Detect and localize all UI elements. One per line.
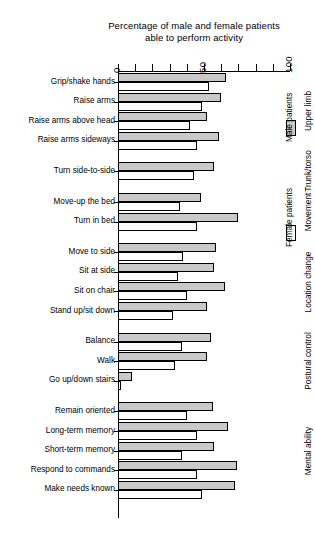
- bar-female: [118, 342, 182, 351]
- bar-row: [118, 470, 290, 479]
- bar-male: [118, 243, 216, 252]
- bar-row: [118, 193, 290, 202]
- group-label: Movementin bed: [304, 192, 314, 231]
- bar-row: [118, 402, 290, 411]
- bar-row: [118, 361, 290, 370]
- bar-female: [118, 291, 187, 300]
- category-label: Move to side: [2, 247, 118, 256]
- bar-row: [118, 302, 290, 311]
- category-label: Raise arms: [2, 96, 118, 105]
- chart-title-line-2: able to perform activity: [88, 32, 300, 44]
- x-axis-tick: [135, 64, 136, 71]
- bar-row: [118, 263, 290, 272]
- bar-row: [118, 171, 290, 180]
- bar-row: [118, 282, 290, 291]
- category-label: Move-up the bed: [2, 197, 118, 206]
- group-label: Mental ability: [304, 426, 314, 474]
- x-axis-tick: [187, 64, 188, 71]
- category-label: Go up/down stairs: [2, 375, 118, 384]
- bar-row: [118, 461, 290, 470]
- category-label: Short-term memory: [2, 445, 118, 454]
- bar-female: [118, 171, 194, 180]
- category-label: Sit on chair: [2, 286, 118, 295]
- bar-row: [118, 291, 290, 300]
- bar-male: [118, 402, 213, 411]
- bar-row: [118, 372, 290, 381]
- category-label: Turn side-to-side: [2, 166, 118, 175]
- category-label: Raise arms sideways: [2, 135, 118, 144]
- category-label: Turn in bed: [2, 216, 118, 225]
- bar-female: [118, 451, 182, 460]
- bar-male: [118, 263, 214, 272]
- bar-row: [118, 481, 290, 490]
- group-label-line: mobility: [314, 91, 315, 131]
- bar-male: [118, 302, 207, 311]
- bar-male: [118, 73, 226, 82]
- legend-label-male: Male patients: [284, 93, 294, 142]
- chart-title: Percentage of male and female patients a…: [88, 20, 300, 44]
- bar-row: [118, 352, 290, 361]
- bar-row: [118, 162, 290, 171]
- category-label: Walk: [2, 356, 118, 365]
- bar-row: [118, 431, 290, 440]
- bar-row: [118, 213, 290, 222]
- bar-row: [118, 333, 290, 342]
- bar-male: [118, 132, 219, 141]
- bar-male: [118, 461, 237, 470]
- bar-female: [118, 411, 187, 420]
- category-label: Respond to commands: [2, 465, 118, 474]
- group-label: Postural control: [304, 332, 314, 390]
- bar-row: [118, 311, 290, 320]
- category-label: Raise arms above head: [2, 116, 118, 125]
- bar-female: [118, 361, 175, 370]
- bar-female: [118, 141, 197, 150]
- x-axis-tick: [256, 64, 257, 71]
- bar-row: [118, 342, 290, 351]
- bar-row: [118, 102, 290, 111]
- bar-row: [118, 141, 290, 150]
- x-axis-tick-label: 100: [283, 56, 294, 73]
- bar-female: [118, 311, 173, 320]
- bar-row: [118, 93, 290, 102]
- x-axis-tick: [170, 64, 171, 71]
- bar-row: [118, 121, 290, 130]
- bar-row: [118, 451, 290, 460]
- category-label: Long-term memory: [2, 426, 118, 435]
- bar-row: [118, 411, 290, 420]
- bar-female: [118, 252, 183, 261]
- bar-male: [118, 442, 214, 451]
- group-label: Location change: [304, 251, 314, 312]
- group-label: Trunk/torsomobility: [304, 151, 314, 193]
- bar-male: [118, 193, 201, 202]
- bar-male: [118, 162, 214, 171]
- bar-row: [118, 442, 290, 451]
- bar-female: [118, 222, 197, 231]
- bar-male: [118, 372, 132, 381]
- plot-area: [118, 72, 290, 518]
- legend-label-female: Female patients: [284, 188, 294, 247]
- bar-male: [118, 213, 238, 222]
- bar-row: [118, 490, 290, 499]
- chart-title-line-1: Percentage of male and female patients: [88, 20, 300, 32]
- bar-male: [118, 333, 211, 342]
- bar-row: [118, 132, 290, 141]
- group-label: Upper limbmobility: [304, 91, 314, 131]
- bar-female: [118, 82, 209, 91]
- bar-row: [118, 82, 290, 91]
- chart-root: Percentage of male and female patients a…: [0, 0, 314, 542]
- bar-male: [118, 352, 207, 361]
- bar-row: [118, 272, 290, 281]
- bar-female: [118, 381, 121, 390]
- bar-row: [118, 202, 290, 211]
- category-label: Grip/shake hands: [2, 77, 118, 86]
- category-label: Stand up/sit down: [2, 306, 118, 315]
- bar-female: [118, 490, 202, 499]
- category-label: Make needs known: [2, 484, 118, 493]
- category-label: Sit at side: [2, 266, 118, 275]
- bar-row: [118, 73, 290, 82]
- category-label: Balance: [2, 336, 118, 345]
- bar-female: [118, 272, 178, 281]
- bar-row: [118, 422, 290, 431]
- category-label: Remain oriented: [2, 406, 118, 415]
- bar-male: [118, 93, 221, 102]
